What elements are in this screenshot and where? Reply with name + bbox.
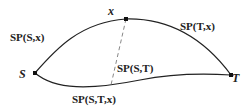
- node-x-label: x: [107, 4, 114, 18]
- node-t-label: T: [232, 71, 240, 85]
- node-s-point: [33, 71, 37, 75]
- label-sp-s-t: SP(S,T): [117, 62, 154, 75]
- label-sp-t-x: SP(T,x): [180, 20, 215, 33]
- node-x-point: [124, 17, 128, 21]
- node-s-label: S: [19, 67, 26, 81]
- edge-sp-s-x: [35, 19, 126, 73]
- edge-sp-s-t: [35, 73, 231, 87]
- edge-dashed-x: [111, 19, 126, 85]
- label-sp-s-x: SP(S,x): [10, 31, 45, 44]
- label-sp-s-t-x: SP(S,T,x): [72, 93, 116, 106]
- shortest-path-diagram: S x T SP(S,x) SP(T,x) SP(S,T) SP(S,T,x): [0, 0, 252, 109]
